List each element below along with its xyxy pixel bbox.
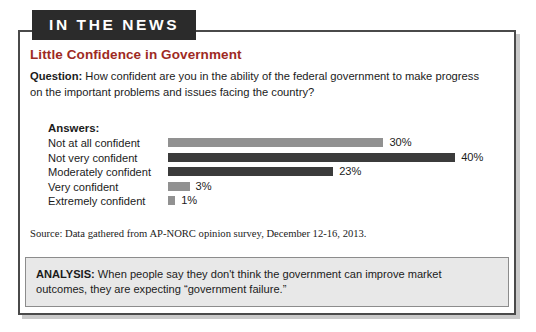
analysis-paragraph: ANALYSIS: When people say they don't thi…	[36, 267, 456, 297]
source-note: Source: Data gathered from AP-NORC opini…	[30, 228, 366, 239]
chart-row-label: Not at all confident	[48, 137, 140, 149]
chart-bar-value: 40%	[461, 151, 483, 163]
figure-content: Little Confidence in Government Question…	[0, 0, 536, 332]
analysis-prefix: ANALYSIS:	[36, 268, 95, 280]
in-the-news-banner: IN THE NEWS	[32, 10, 196, 40]
chart-bar	[168, 167, 333, 176]
chart-row: Not very confident40%	[48, 151, 498, 166]
question-text: How confident are you in the ability of …	[30, 70, 479, 98]
chart-row-label: Not very confident	[48, 152, 137, 164]
chart-bar	[168, 196, 175, 205]
chart-row-label: Extremely confident	[48, 195, 145, 207]
page-title: Little Confidence in Government	[30, 47, 242, 62]
answers-heading: Answers:	[48, 122, 99, 134]
in-the-news-figure: IN THE NEWS Little Confidence in Governm…	[0, 0, 536, 332]
chart-bar	[168, 153, 455, 162]
chart-bar	[168, 138, 383, 147]
question-prefix: Question:	[30, 70, 82, 82]
chart-bar-value: 1%	[181, 194, 197, 206]
chart-row-label: Very confident	[48, 181, 118, 193]
chart-row: Very confident3%	[48, 180, 498, 195]
chart-row: Moderately confident23%	[48, 165, 498, 180]
chart-bar-value: 3%	[196, 180, 212, 192]
chart-row: Extremely confident1%	[48, 194, 498, 209]
chart-bar-value: 23%	[339, 165, 361, 177]
banner-label: IN THE NEWS	[49, 17, 179, 33]
chart-row: Not at all confident30%	[48, 136, 498, 151]
confidence-bar-chart: Not at all confident30%Not very confiden…	[48, 136, 498, 209]
analysis-text: When people say they don't think the gov…	[36, 268, 442, 295]
question-paragraph: Question: How confident are you in the a…	[30, 69, 490, 100]
chart-bar-value: 30%	[389, 136, 411, 148]
chart-row-label: Moderately confident	[48, 166, 151, 178]
chart-bar	[168, 182, 190, 191]
